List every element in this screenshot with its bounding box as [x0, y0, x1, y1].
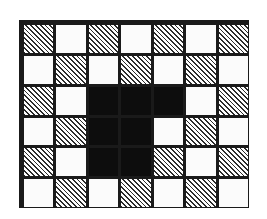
grid-outer-border — [19, 20, 249, 208]
grid-cell-hatch-r1-c3 — [89, 25, 118, 53]
grid-cell-white-r1-c6 — [186, 25, 215, 53]
checkerboard-grid — [23, 24, 249, 208]
grid-cell-white-r6-c5 — [154, 179, 183, 207]
grid-cell-hatch-r2-c2 — [56, 56, 85, 84]
grid-cell-hatch-r2-c6 — [186, 56, 215, 84]
grid-cell-white-r2-c7 — [219, 56, 248, 84]
grid-cell-black-r4-c4 — [121, 118, 150, 146]
grid-cell-white-r6-c7 — [219, 179, 248, 207]
grid-cell-hatch-r4-c6 — [186, 118, 215, 146]
grid-cell-white-r3-c2 — [56, 87, 85, 115]
grid-cell-black-r4-c3 — [89, 118, 118, 146]
grid-cell-hatch-r3-c1 — [24, 87, 53, 115]
grid-cell-hatch-r5-c7 — [219, 148, 248, 176]
grid-cell-hatch-r5-c1 — [24, 148, 53, 176]
grid-cell-white-r1-c2 — [56, 25, 85, 53]
grid-cell-black-r3-c3 — [89, 87, 118, 115]
figure-root — [0, 0, 267, 219]
grid-cell-white-r5-c2 — [56, 148, 85, 176]
grid-cell-hatch-r1-c5 — [154, 25, 183, 53]
grid-cell-white-r6-c1 — [24, 179, 53, 207]
grid-cell-white-r4-c5 — [154, 118, 183, 146]
grid-cell-hatch-r6-c4 — [121, 179, 150, 207]
grid-cell-hatch-r4-c2 — [56, 118, 85, 146]
grid-cell-white-r2-c5 — [154, 56, 183, 84]
grid-cell-white-r2-c3 — [89, 56, 118, 84]
grid-cell-black-r5-c4 — [121, 148, 150, 176]
grid-cell-white-r4-c7 — [219, 118, 248, 146]
grid-cell-hatch-r3-c7 — [219, 87, 248, 115]
grid-cell-hatch-r6-c6 — [186, 179, 215, 207]
grid-cell-black-r3-c5 — [154, 87, 183, 115]
grid-cell-white-r5-c6 — [186, 148, 215, 176]
grid-cell-white-r2-c1 — [24, 56, 53, 84]
grid-cell-black-r5-c3 — [89, 148, 118, 176]
grid-cell-white-r4-c1 — [24, 118, 53, 146]
grid-cell-black-r3-c4 — [121, 87, 150, 115]
grid-cell-hatch-r6-c2 — [56, 179, 85, 207]
grid-cell-hatch-r1-c7 — [219, 25, 248, 53]
grid-cell-white-r6-c3 — [89, 179, 118, 207]
grid-cell-white-r3-c6 — [186, 87, 215, 115]
grid-cell-white-r1-c4 — [121, 25, 150, 53]
grid-cell-hatch-r5-c5 — [154, 148, 183, 176]
grid-cell-hatch-r1-c1 — [24, 25, 53, 53]
grid-cell-hatch-r2-c4 — [121, 56, 150, 84]
